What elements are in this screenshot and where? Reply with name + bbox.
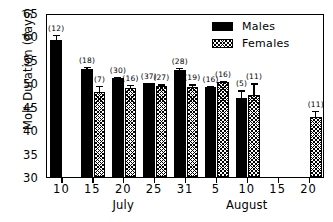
females-6-error-cap [251,83,258,84]
females-6-sample-size-label: (11) [239,72,269,81]
legend-item-females: Females [212,36,290,51]
females-8-error-bar [315,111,316,119]
females-1-sample-size-label: (7) [85,75,115,84]
females-8-bar [310,117,322,177]
females-1-bar [94,92,106,177]
males-0-sample-size-label: (12) [41,24,71,33]
month-label-august: August [202,198,292,212]
y-tick-label: 55 [0,54,46,68]
females-5-bar [217,82,229,177]
males-0-bar [50,40,62,177]
x-tick-label: 20 [294,182,324,196]
y-tick-label: 60 [0,30,46,44]
y-tick-label: 50 [0,77,46,91]
legend-label-females: Females [242,37,290,50]
x-tick-label: 5 [201,182,231,196]
x-tick-label: 31 [170,182,200,196]
males-6-error-cap [238,90,245,91]
males-4-sample-size-label: (28) [165,57,195,66]
y-tick-label: 65 [0,7,46,21]
females-8-sample-size-label: (11) [301,100,331,109]
y-tick-label: 30 [0,171,46,185]
males-5-error-cap [207,86,214,87]
females-1-error-cap [96,86,103,87]
legend-item-males: Males [212,19,290,34]
legend-label-males: Males [242,20,275,33]
males-5-bar [205,87,217,177]
y-tick-label: 45 [0,101,46,115]
x-tick-label: 20 [108,182,138,196]
males-2-bar [112,78,124,177]
males-1-error-cap [84,67,91,68]
males-4-bar [174,70,186,177]
x-tick-label: 10 [46,182,76,196]
males-3-bar [143,83,155,177]
males-3-error-cap [145,83,152,84]
females-5-sample-size-label: (16) [208,70,238,79]
males-0-error-cap [53,35,60,36]
females-2-bar [125,88,137,177]
legend-swatch-males-icon [212,22,233,31]
females-8-error-cap [312,111,319,112]
females-1-error-bar [99,86,100,94]
females-2-error-cap [127,85,134,86]
x-tick-label: 10 [232,182,262,196]
males-1-sample-size-label: (18) [72,56,102,65]
males-4-error-cap [176,68,183,69]
females-6-error-bar [253,83,254,97]
females-3-sample-size-label: (27) [146,73,176,82]
females-4-error-cap [189,84,196,85]
x-tick-label: 25 [139,182,169,196]
females-4-bar [187,87,199,177]
chart-figure: Molt Duration (days) 6560555045403530 10… [0,0,333,222]
x-tick-label: 15 [77,182,107,196]
females-3-error-cap [158,84,165,85]
chart-legend: Males Females [212,19,290,53]
month-label-july: July [78,198,168,212]
x-tick-label: 15 [263,182,293,196]
males-6-error-bar [241,90,242,99]
males-6-bar [236,98,248,177]
females-6-bar [248,95,260,177]
y-tick-label: 35 [0,148,46,162]
legend-swatch-females-icon [212,39,233,48]
males-1-bar [81,69,93,177]
females-3-bar [156,86,168,177]
y-tick-label: 40 [0,124,46,138]
